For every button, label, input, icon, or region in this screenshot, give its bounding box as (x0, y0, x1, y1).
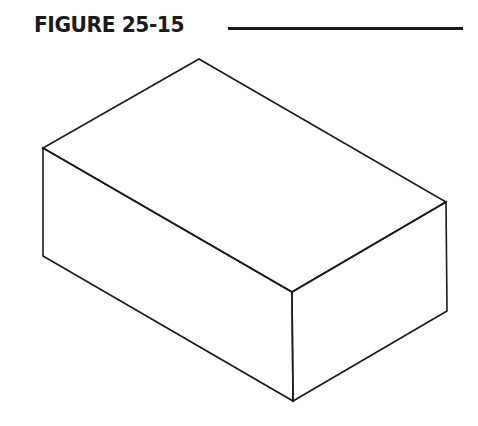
box-left-face (43, 148, 293, 401)
box-right-face (292, 202, 447, 401)
isometric-box-diagram (0, 0, 478, 426)
box-top-face (43, 59, 446, 292)
